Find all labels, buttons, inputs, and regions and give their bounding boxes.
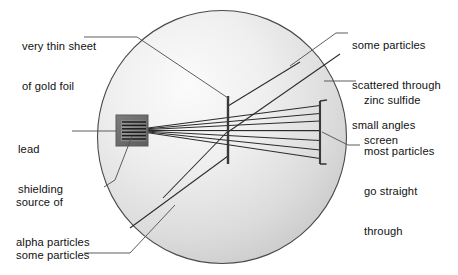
gold-foil-label-line-2: of gold foil (22, 80, 96, 93)
small-angle-label-line-1: some particles (352, 39, 441, 52)
most-particles-label-line-2: go straight (364, 185, 434, 198)
most-particles-label-line-3: through (364, 225, 434, 238)
diagram-root: very thin sheet of gold foil lead shield… (0, 0, 458, 275)
gold-foil-label-line-1: very thin sheet (22, 40, 96, 53)
alpha-particle-source (121, 120, 146, 141)
alpha-source-label-line-1: source of (16, 196, 90, 209)
zinc-screen-label-line-1: zinc sulfide (364, 94, 421, 107)
large-angle-scatter-label: some particles scattered through large a… (16, 223, 105, 275)
most-particles-label-line-1: most particles (364, 145, 434, 158)
lead-shielding-label-line-1: lead (18, 143, 63, 156)
lead-shielding-block (116, 115, 148, 146)
most-particles-label: most particles go straight through (364, 119, 434, 264)
gold-foil-label: very thin sheet of gold foil (22, 14, 96, 120)
large-angle-label-line-1: some particles (16, 249, 105, 262)
